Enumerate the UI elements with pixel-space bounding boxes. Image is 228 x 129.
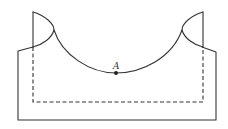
right-flap-curve: [182, 12, 203, 47]
point-a-label: A: [112, 61, 120, 71]
outer-outline: [18, 47, 216, 120]
dashed-fold-lines: [33, 47, 203, 102]
point-a-marker: [114, 71, 118, 75]
figure-svg: A: [0, 0, 228, 129]
diagram-canvas: A: [0, 0, 228, 129]
left-flap-curve: [33, 12, 54, 47]
